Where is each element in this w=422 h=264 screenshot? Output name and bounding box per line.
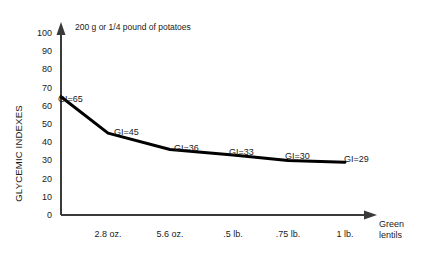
y-tick-0: 0: [26, 210, 52, 220]
data-label-gi-65: GI=65: [58, 94, 83, 104]
x-tick-5-6-oz: 5.6 oz.: [140, 229, 200, 239]
y-tick-50: 50: [26, 119, 52, 129]
y-tick-30: 30: [26, 155, 52, 165]
data-label-gi-33: GI=33: [229, 147, 254, 157]
x-axis-end-label: Green lentils: [379, 219, 404, 241]
x-axis-arrowhead: [364, 211, 377, 220]
x-tick-2-8-oz: 2.8 oz.: [78, 229, 138, 239]
y-tick-70: 70: [26, 83, 52, 93]
x-tick-1-lb: 1 lb.: [318, 229, 372, 239]
x-axis-end-label-line2: lentils: [379, 230, 404, 241]
y-tick-60: 60: [26, 101, 52, 111]
y-tick-10: 10: [26, 192, 52, 202]
glycemic-index-chart: 200 g or 1/4 pound of potatoes GLYCEMIC …: [0, 0, 422, 264]
y-axis-title: GLYCEMIC INDEXES: [13, 94, 24, 214]
x-axis-end-label-line1: Green: [379, 219, 404, 230]
chart-note: 200 g or 1/4 pound of potatoes: [75, 22, 191, 32]
y-tick-40: 40: [26, 137, 52, 147]
x-tick-point75-lb: .75 lb.: [259, 229, 317, 239]
data-label-gi-45: GI=45: [114, 127, 139, 137]
y-tick-90: 90: [26, 46, 52, 56]
data-label-gi-29: GI=29: [344, 154, 369, 164]
x-tick-point5-lb: .5 lb.: [205, 229, 261, 239]
data-label-gi-30: GI=30: [285, 151, 310, 161]
y-tick-80: 80: [26, 64, 52, 74]
y-tick-100: 100: [26, 28, 52, 38]
y-tick-20: 20: [26, 174, 52, 184]
chart-plot-area: [0, 0, 422, 264]
y-axis-arrowhead: [57, 22, 66, 35]
data-label-gi-36: GI=36: [174, 143, 199, 153]
